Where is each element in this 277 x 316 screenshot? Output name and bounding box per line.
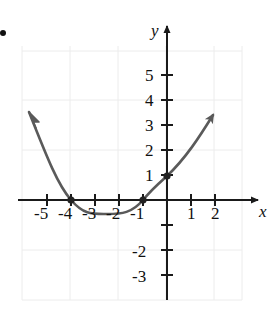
x-tick-label-neg1: -1 <box>130 205 144 222</box>
parabola-curve <box>29 112 213 214</box>
x-tick-label-1: 1 <box>187 205 196 222</box>
x-tick-label-2: 2 <box>211 205 220 222</box>
x-tick-label-neg3: -3 <box>82 205 96 222</box>
y-axis-label: y <box>151 22 159 39</box>
x-tick-label-neg4: -4 <box>58 205 72 222</box>
y-tick-label-neg3: -3 <box>132 268 146 285</box>
y-tick-label-1: 1 <box>145 167 154 184</box>
y-tick-label-5: 5 <box>145 67 154 84</box>
y-tick-label-3: 3 <box>145 117 154 134</box>
point-y-intercept <box>163 172 170 179</box>
x-tick-label-neg5: -5 <box>34 205 48 222</box>
parabola-left-arrowhead <box>29 112 39 128</box>
x-axis-label: x <box>259 203 267 220</box>
point-root-right <box>139 196 146 203</box>
y-tick-label-2: 2 <box>145 142 154 159</box>
x-tick-label-neg2: -2 <box>106 205 120 222</box>
graph-figure: 5 4 3 2 1 -2 -3 -5 -4 -3 -2 -1 1 2 y x <box>0 0 277 316</box>
point-root-left <box>67 196 74 203</box>
y-tick-label-4: 4 <box>145 92 154 109</box>
y-tick-label-neg2: -2 <box>132 243 146 260</box>
